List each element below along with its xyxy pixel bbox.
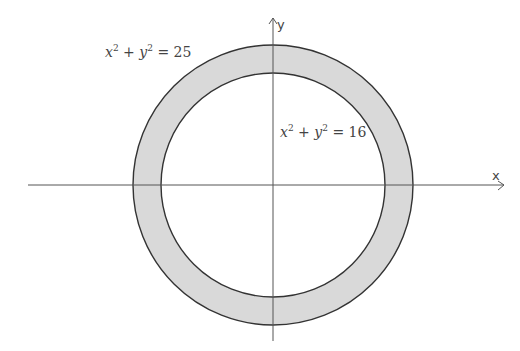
eq-exponent: 2 <box>288 123 294 133</box>
eq-exponent: 2 <box>113 43 119 53</box>
outer-circle-equation: x2 + y2 = 25 <box>105 44 191 60</box>
eq-var-y: y <box>139 44 147 60</box>
x-axis-label: x <box>492 168 500 183</box>
eq-var-x: x <box>105 44 113 60</box>
eq-equals: = <box>157 44 169 60</box>
eq-exponent: 2 <box>322 123 328 133</box>
eq-var-x: x <box>280 124 288 140</box>
eq-rhs: 25 <box>174 44 192 60</box>
eq-equals: = <box>332 124 344 140</box>
eq-plus: + <box>298 124 310 140</box>
annulus-diagram <box>0 0 520 351</box>
eq-rhs: 16 <box>349 124 367 140</box>
inner-circle-equation: x2 + y2 = 16 <box>280 124 366 140</box>
eq-var-y: y <box>314 124 322 140</box>
y-axis-label: y <box>277 17 285 32</box>
eq-exponent: 2 <box>147 43 153 53</box>
eq-plus: + <box>123 44 135 60</box>
